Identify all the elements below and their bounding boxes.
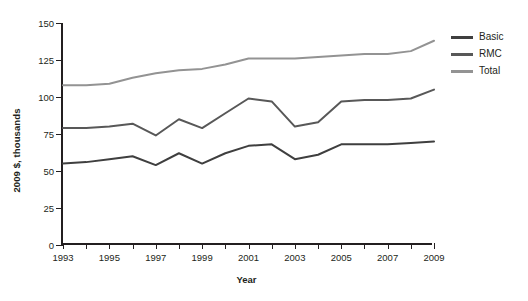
- x-tick-label: 1995: [99, 252, 120, 263]
- series-lines: [61, 23, 434, 245]
- x-tick-label: 2003: [284, 252, 305, 263]
- y-tick-label: 50: [43, 166, 54, 177]
- legend-label: Basic: [479, 32, 503, 42]
- x-tick-label: 1993: [52, 252, 73, 263]
- legend-swatch: [451, 53, 473, 56]
- line-chart: 2009 $, thousands 0255075100125150 19931…: [0, 0, 528, 301]
- y-tick-label: 75: [43, 129, 54, 140]
- legend-label: Total: [479, 66, 500, 76]
- plot-area: 0255075100125150 19931995199719992001200…: [61, 23, 432, 245]
- x-tick: [434, 243, 435, 249]
- legend-swatch: [451, 36, 473, 39]
- y-tick-label: 150: [38, 18, 54, 29]
- x-tick-label: 2009: [423, 252, 444, 263]
- y-tick-label: 100: [38, 92, 54, 103]
- y-axis-title-text: 2009 $, thousands: [11, 108, 22, 192]
- chart-legend: BasicRMCTotal: [451, 32, 503, 76]
- x-tick-label: 2005: [331, 252, 352, 263]
- x-tick-label: 1997: [145, 252, 166, 263]
- legend-item-rmc: RMC: [451, 49, 503, 59]
- x-tick-label: 2007: [377, 252, 398, 263]
- x-tick-label: 1999: [192, 252, 213, 263]
- legend-swatch: [451, 70, 473, 73]
- x-tick-label: 2001: [238, 252, 259, 263]
- series-line-rmc: [63, 90, 434, 136]
- legend-item-basic: Basic: [451, 32, 503, 42]
- y-tick-label: 125: [38, 55, 54, 66]
- legend-item-total: Total: [451, 66, 503, 76]
- y-axis-title: 2009 $, thousands: [6, 0, 26, 301]
- y-tick-label: 0: [49, 240, 54, 251]
- legend-label: RMC: [479, 49, 502, 59]
- x-axis-title: Year: [61, 274, 432, 285]
- y-tick: [56, 245, 63, 246]
- series-line-basic: [63, 141, 434, 165]
- series-line-total: [63, 41, 434, 85]
- y-tick-label: 25: [43, 203, 54, 214]
